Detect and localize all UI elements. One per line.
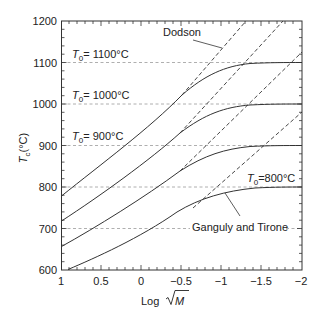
x-axis-log: Log bbox=[141, 295, 159, 307]
t0-annotations: T0= 1100°C T0= 1000°C T0= 900°C T0=800°C bbox=[72, 48, 295, 187]
y-tick-600: 600 bbox=[39, 264, 57, 276]
x-tick-0.5: 0.5 bbox=[93, 275, 108, 287]
y-axis-title: Tc(°C) bbox=[17, 133, 32, 163]
x-tick-neg1.5: −1.5 bbox=[250, 275, 272, 287]
curve-1000 bbox=[62, 104, 303, 221]
y-tick-800: 800 bbox=[39, 181, 57, 193]
x-tick-labels: 1 0.5 0 −0.5 −1 −1.5 −2 bbox=[58, 275, 307, 287]
ganguly-leader bbox=[225, 193, 240, 216]
y-axis-unit: (°C) bbox=[17, 133, 29, 153]
y-tick-labels: 1200 1100 1000 900 800 700 600 bbox=[33, 15, 57, 276]
y-tick-1100: 1100 bbox=[33, 57, 57, 69]
y-tick-1200: 1200 bbox=[33, 15, 57, 27]
dodson-leader bbox=[193, 40, 222, 48]
x-tick-0: 0 bbox=[138, 275, 144, 287]
chart: 1200 1100 1000 900 800 700 600 1 0.5 0 −… bbox=[0, 0, 318, 316]
label-t0-1000: T0= 1000°C bbox=[72, 89, 130, 104]
x-tick-neg0.5: −0.5 bbox=[170, 275, 192, 287]
label-t0-1100: T0= 1100°C bbox=[72, 48, 129, 63]
y-tick-900: 900 bbox=[39, 140, 57, 152]
x-tick-1: 1 bbox=[58, 275, 64, 287]
label-dodson: Dodson bbox=[163, 26, 201, 38]
dodson-line-800 bbox=[193, 112, 302, 208]
dodson-line-900 bbox=[180, 52, 302, 171]
x-axis-title: Log M bbox=[141, 291, 189, 308]
y-tick-1000: 1000 bbox=[33, 98, 57, 110]
label-t0-900: T0= 900°C bbox=[72, 130, 123, 145]
label-t0-800: T0=800°C bbox=[247, 172, 295, 187]
x-tick-neg1: −1 bbox=[215, 275, 228, 287]
x-tick-neg2: −2 bbox=[295, 275, 308, 287]
y-tick-700: 700 bbox=[39, 223, 57, 235]
x-axis-variable: M bbox=[175, 295, 185, 307]
label-ganguly-tirone: Ganguly and Tirone bbox=[192, 221, 288, 233]
svg-text:Tc(°C): Tc(°C) bbox=[17, 133, 32, 163]
